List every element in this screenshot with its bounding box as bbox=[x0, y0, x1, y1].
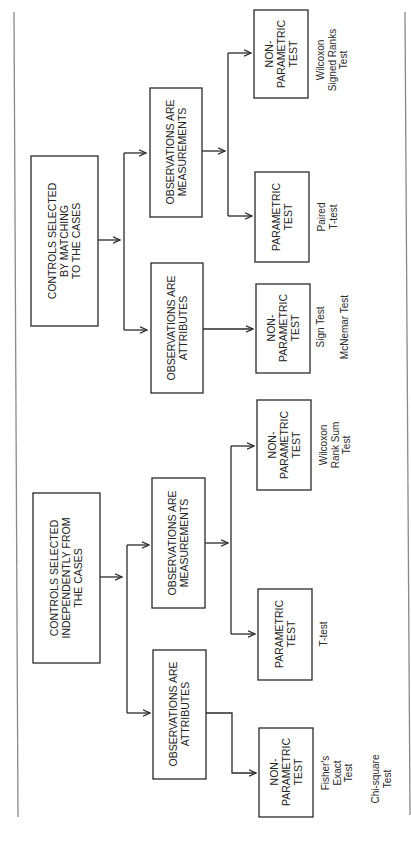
label-matching-measurements: OBSERVATIONS ARE MEASUREMENTS bbox=[164, 99, 188, 204]
label-line: OBSERVATIONS ARE bbox=[167, 661, 179, 766]
label-line: TEST bbox=[289, 294, 301, 362]
label-matching-attributes: OBSERVATIONS ARE ATTRIBUTES bbox=[165, 275, 189, 380]
result-line: T-test bbox=[318, 621, 330, 646]
label-line: CONTROLS SELECTED bbox=[48, 518, 60, 639]
result-line: T-test bbox=[327, 203, 339, 232]
label-nonparametric-sign: NON- PARAMETRIC TEST bbox=[265, 294, 301, 362]
result-line: Wilcoxon bbox=[315, 29, 327, 91]
result-line: McNemar Test bbox=[339, 295, 351, 359]
label-parametric-t-test: PARAMETRIC TEST bbox=[273, 600, 297, 668]
result-line: Fisher's bbox=[320, 756, 332, 791]
result-line: Chi-square bbox=[370, 755, 382, 804]
result-line: Rank Sum bbox=[329, 422, 341, 469]
result-sign-test: Sign Test bbox=[315, 307, 327, 348]
label-line: PARAMETRIC bbox=[278, 411, 290, 479]
label-line: MEASUREMENTS bbox=[178, 490, 190, 595]
label-line: MEASUREMENTS bbox=[176, 99, 188, 204]
label-line: OBSERVATIONS ARE bbox=[166, 490, 178, 595]
result-line: Exact bbox=[331, 756, 343, 791]
result-line: Test bbox=[381, 755, 393, 804]
result-paired-t-test: Paired T-test bbox=[316, 203, 339, 232]
label-line: PARAMETRIC bbox=[270, 183, 282, 251]
label-line: ATTRIBUTES bbox=[179, 661, 191, 766]
result-line: Test bbox=[343, 756, 355, 791]
label-line: TO THE CASES bbox=[70, 183, 82, 300]
label-line: TEST bbox=[287, 20, 299, 88]
result-t-test: T-test bbox=[318, 621, 330, 646]
label-line: THE CASES bbox=[72, 518, 84, 639]
label-independent-attributes: OBSERVATIONS ARE ATTRIBUTES bbox=[167, 661, 191, 766]
result-wilcoxon-signed-ranks: Wilcoxon Signed Ranks Test bbox=[315, 29, 350, 91]
result-line: Test bbox=[341, 422, 353, 469]
label-line: ATTRIBUTES bbox=[177, 275, 189, 380]
label-line: BY MATCHING bbox=[58, 183, 70, 300]
label-line: OBSERVATIONS ARE bbox=[164, 99, 176, 204]
label-line: OBSERVATIONS ARE bbox=[165, 275, 177, 380]
result-line: Test bbox=[338, 29, 350, 91]
result-fishers-exact-test: Fisher's Exact Test bbox=[320, 756, 355, 791]
label-line: TEST bbox=[285, 600, 297, 668]
result-wilcoxon-rank-sum: Wilcoxon Rank Sum Test bbox=[318, 422, 353, 469]
label-line: CONTROLS SELECTED bbox=[46, 183, 58, 300]
label-line: INDEPENDENTLY FROM bbox=[60, 518, 72, 639]
label-line: TEST bbox=[292, 738, 304, 806]
label-line: TEST bbox=[282, 183, 294, 251]
label-line: PARAMETRIC bbox=[273, 600, 285, 668]
right-frame-line bbox=[405, 12, 410, 815]
result-line: Wilcoxon bbox=[318, 422, 330, 469]
label-line: PARAMETRIC bbox=[275, 20, 287, 88]
label-line: NON- bbox=[263, 20, 275, 88]
root-label-matching: CONTROLS SELECTED BY MATCHING TO THE CAS… bbox=[46, 183, 82, 300]
label-parametric-paired: PARAMETRIC TEST bbox=[270, 183, 294, 251]
label-line: NON- bbox=[268, 738, 280, 806]
label-nonparametric-fisher: NON- PARAMETRIC TEST bbox=[268, 738, 304, 806]
left-frame-line bbox=[14, 12, 18, 817]
result-line: Paired bbox=[316, 203, 328, 232]
label-nonparametric-rank-sum: NON- PARAMETRIC TEST bbox=[266, 411, 302, 479]
label-line: NON- bbox=[265, 294, 277, 362]
result-mcnemar-test: McNemar Test bbox=[339, 295, 351, 359]
label-line: PARAMETRIC bbox=[277, 294, 289, 362]
result-chi-square-test: Chi-square Test bbox=[370, 755, 393, 804]
result-line: Sign Test bbox=[315, 307, 327, 348]
root-label-independent: CONTROLS SELECTED INDEPENDENTLY FROM THE… bbox=[48, 518, 84, 639]
label-nonparametric-signed-ranks: NON- PARAMETRIC TEST bbox=[263, 20, 299, 88]
label-independent-measurements: OBSERVATIONS ARE MEASUREMENTS bbox=[166, 490, 190, 595]
label-line: PARAMETRIC bbox=[280, 738, 292, 806]
result-line: Signed Ranks bbox=[326, 29, 338, 91]
arrow-to-fisher bbox=[206, 713, 256, 773]
label-line: NON- bbox=[266, 411, 278, 479]
label-line: TEST bbox=[290, 411, 302, 479]
